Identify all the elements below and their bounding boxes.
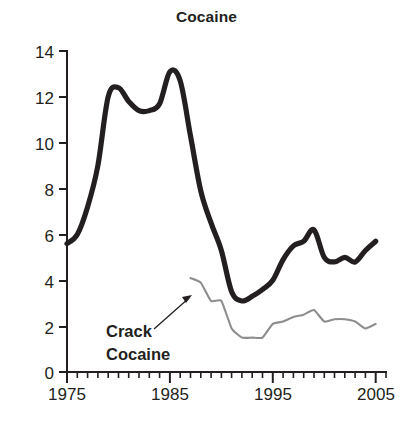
y-tick-label: 6 xyxy=(45,227,54,246)
cocaine-line-chart: 14 12 10 8 6 4 2 0 1975 1985 1995 2005 xyxy=(0,0,413,441)
arrow-head-icon xyxy=(182,295,192,303)
y-tick-label: 8 xyxy=(45,181,54,200)
x-axis-ticks xyxy=(67,372,386,383)
y-tick-label: 0 xyxy=(45,364,54,383)
x-tick-label: 1995 xyxy=(254,385,292,404)
y-tick-label: 12 xyxy=(35,89,54,108)
callout-leader-line xyxy=(154,298,189,329)
crack-cocaine-label: Crack Cocaine xyxy=(106,322,170,363)
x-tick-label: 1985 xyxy=(151,385,189,404)
y-axis-tick-labels: 14 12 10 8 6 4 2 0 xyxy=(35,43,54,383)
y-axis-ticks xyxy=(59,51,67,372)
y-tick-label: 10 xyxy=(35,135,54,154)
crack-cocaine-label-line2: Cocaine xyxy=(106,345,170,363)
x-tick-label: 2005 xyxy=(357,385,395,404)
x-axis-tick-labels: 1975 1985 1995 2005 xyxy=(48,385,395,404)
series-line-crack-cocaine xyxy=(190,278,375,338)
crack-cocaine-label-line1: Crack xyxy=(106,322,153,340)
series-line-cocaine xyxy=(67,70,376,301)
chart-container: Cocaine 14 12 10 8 6 4 2 0 xyxy=(0,0,413,441)
y-tick-label: 14 xyxy=(35,43,54,62)
y-tick-label: 4 xyxy=(45,273,54,292)
x-tick-label: 1975 xyxy=(48,385,86,404)
y-tick-label: 2 xyxy=(45,319,54,338)
crack-cocaine-callout xyxy=(154,295,192,329)
